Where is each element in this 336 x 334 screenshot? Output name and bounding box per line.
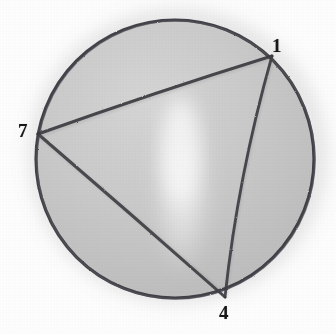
inscribed-triangle-figure (0, 0, 336, 334)
glare-core (163, 98, 197, 202)
sketch-canvas: 1 7 4 (0, 0, 336, 334)
vertex-label-1: 1 (272, 36, 282, 55)
vertex-label-4: 4 (219, 303, 229, 322)
vertex-label-7: 7 (18, 121, 28, 140)
